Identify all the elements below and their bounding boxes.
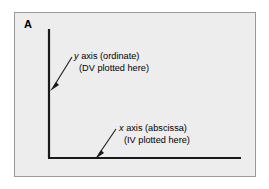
x-axis-arrow xyxy=(95,129,116,159)
y-axis-arrow xyxy=(50,57,72,91)
figure-panel-a: A y axis (ordinate) (DV plotted here) x … xyxy=(14,12,256,177)
x-axis-annotation: x axis (abscissa) (IV plotted here) xyxy=(119,123,190,146)
x-axis-label-rest: axis (abscissa) xyxy=(124,123,187,133)
x-axis-label-line1: x axis (abscissa) xyxy=(119,123,187,133)
axes-diagram xyxy=(15,13,255,176)
y-axis-annotation: y axis (ordinate) (DV plotted here) xyxy=(74,51,149,74)
y-axis-label-rest: axis (ordinate) xyxy=(79,51,140,61)
y-axis-label-line1: y axis (ordinate) xyxy=(74,51,139,61)
figure-root: A y axis (ordinate) (DV plotted here) x … xyxy=(0,0,269,189)
y-axis-label-line2: (DV plotted here) xyxy=(74,63,149,75)
x-axis-label-line2: (IV plotted here) xyxy=(119,135,190,147)
